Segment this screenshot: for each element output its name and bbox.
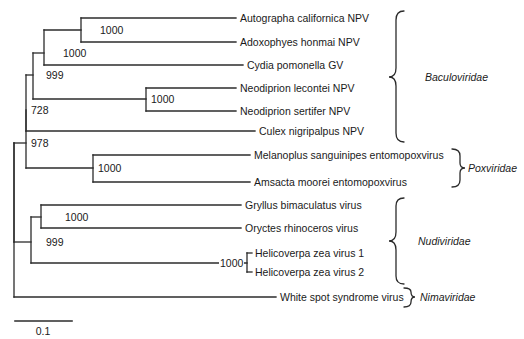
- support-value-baculo-plus-pox: 978: [30, 138, 50, 149]
- family-label-poxviridae: Poxviridae: [468, 163, 517, 174]
- scale-bar-label: 0.1: [36, 326, 51, 337]
- taxon-label-neodiprion-lecontei-npv: Neodiprion lecontei NPV: [240, 83, 354, 94]
- support-value-nudiviridae: 999: [45, 237, 65, 248]
- taxon-label-adoxophyes-honmai-npv: Adoxophyes honmai NPV: [240, 37, 360, 48]
- taxon-label-melanoplus-sanguinipes-entomopoxvirus: Melanoplus sanguinipes entomopoxvirus: [254, 150, 444, 161]
- support-value-lepidopteran-clade: 1000: [62, 48, 87, 59]
- taxon-label-autographa-californica-npv: Autographa californica NPV: [240, 13, 369, 24]
- taxon-label-helicoverpa-zea-virus-1: Helicoverpa zea virus 1: [255, 248, 364, 259]
- taxon-label-gryllus-bimaculatus-virus: Gryllus bimaculatus virus: [245, 200, 362, 211]
- support-value-baculoviridae: 728: [30, 105, 50, 116]
- support-value-gryllus-oryctes: 1000: [64, 212, 89, 223]
- taxon-label-cydia-pomonella-gv: Cydia pomonella GV: [247, 60, 343, 71]
- support-value-autographa-adoxophyes: 1000: [99, 25, 124, 36]
- brace-nudiviridae: [389, 198, 404, 284]
- support-value-baculoviridae-core: 999: [45, 70, 65, 81]
- taxon-label-neodiprion-sertifer-npv: Neodiprion sertifer NPV: [240, 106, 350, 117]
- taxon-label-oryctes-rhinoceros-virus: Oryctes rhinoceros virus: [245, 223, 358, 234]
- brace-nimaviridae: [404, 288, 415, 307]
- family-label-baculoviridae: Baculoviridae: [425, 72, 488, 83]
- support-value-helicoverpa-clade: 1000: [219, 258, 244, 269]
- taxon-label-helicoverpa-zea-virus-2: Helicoverpa zea virus 2: [255, 267, 364, 278]
- support-value-poxviridae: 1000: [97, 163, 122, 174]
- brace-baculoviridae: [389, 11, 404, 142]
- taxon-label-white-spot-syndrome-virus: White spot syndrome virus: [280, 292, 404, 303]
- phylogenetic-tree-figure: Autographa californica NPV Adoxophyes ho…: [0, 0, 524, 339]
- brace-poxviridae: [452, 149, 465, 187]
- family-label-nimaviridae: Nimaviridae: [420, 292, 475, 303]
- taxon-label-amsacta-moorei-entomopoxvirus: Amsacta moorei entomopoxvirus: [254, 177, 407, 188]
- support-value-neodiprion-clade: 1000: [150, 94, 175, 105]
- family-label-nudiviridae: Nudiviridae: [418, 236, 471, 247]
- taxon-label-culex-nigripalpus-npv: Culex nigripalpus NPV: [259, 126, 364, 137]
